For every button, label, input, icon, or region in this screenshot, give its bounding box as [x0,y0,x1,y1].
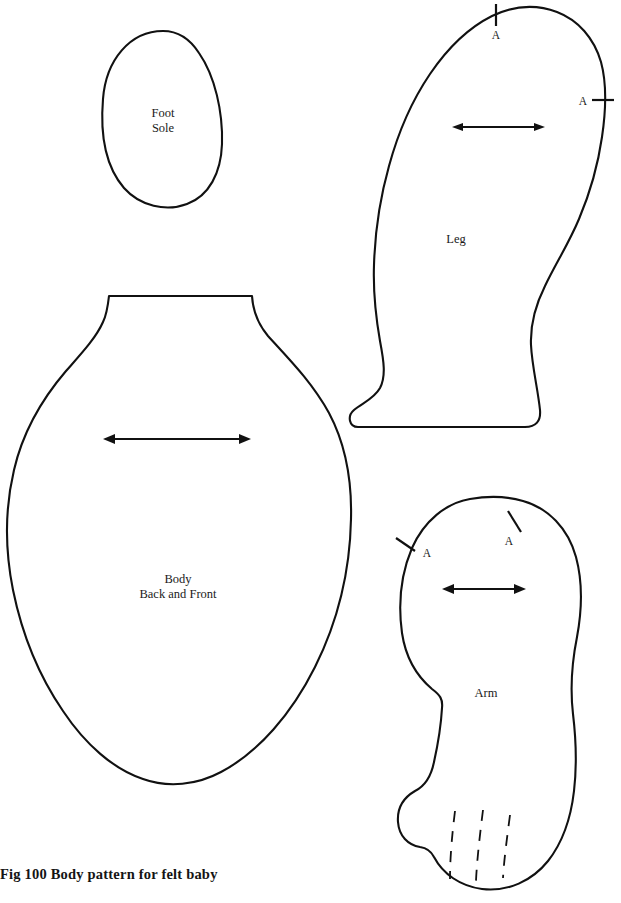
arm-notch-left-label: A [423,547,432,559]
leg-notch-top-label: A [492,29,501,41]
body-outline [7,296,351,784]
leg-outline [350,7,605,427]
figure-caption: Fig 100 Body pattern for felt baby [0,866,420,883]
piece-leg: A A Leg [350,4,614,427]
arm-label: Arm [475,686,498,700]
body-label-line1: Body [164,572,192,586]
arm-notch-right-label: A [505,535,514,547]
pattern-sheet: Foot Sole A A Leg [0,0,621,903]
piece-foot-sole: Foot Sole [102,31,222,207]
piece-arm: A A Arm [396,497,581,890]
foot-sole-label-line1: Foot [152,106,175,120]
body-label-line2: Back and Front [139,587,217,601]
foot-sole-label-line2: Sole [152,121,175,135]
leg-notch-right-label: A [579,95,588,107]
leg-label: Leg [446,232,466,246]
piece-body: Body Back and Front [7,296,351,784]
pattern-drawing: Foot Sole A A Leg [0,0,621,903]
